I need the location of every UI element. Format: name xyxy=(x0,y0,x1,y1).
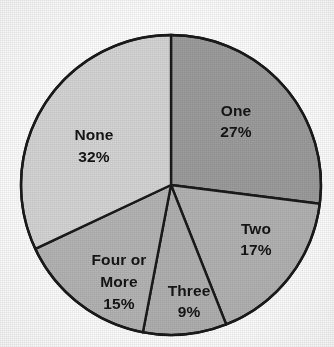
label-three-pct: 9% xyxy=(178,303,201,320)
label-one-name: One xyxy=(221,102,252,119)
label-one-pct: 27% xyxy=(220,123,251,140)
label-four-name-line2: More xyxy=(100,273,138,290)
pie-slice-one[interactable] xyxy=(171,35,321,204)
label-three-name: Three xyxy=(168,282,211,299)
pie-chart-svg: One 27% Two 17% Three 9% Four or More 15… xyxy=(0,0,334,347)
label-none-pct: 32% xyxy=(78,148,109,165)
label-four-name-line1: Four or xyxy=(92,251,147,268)
pie-chart-figure: One 27% Two 17% Three 9% Four or More 15… xyxy=(0,0,334,347)
label-two-name: Two xyxy=(241,220,271,237)
label-four-pct: 15% xyxy=(103,295,134,312)
label-none-name: None xyxy=(74,126,113,143)
label-two-pct: 17% xyxy=(240,241,271,258)
